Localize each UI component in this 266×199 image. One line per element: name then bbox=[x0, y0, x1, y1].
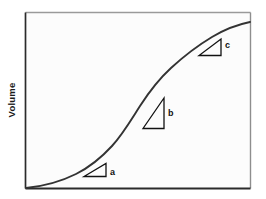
y-axis-label: Volume bbox=[6, 83, 17, 118]
slope-label-c: c bbox=[225, 40, 230, 50]
plot-background bbox=[26, 13, 251, 189]
slope-label-b: b bbox=[168, 108, 174, 118]
volume-sigmoid-chart: a b c Volume bbox=[0, 0, 266, 199]
chart-figure: a b c Volume bbox=[0, 0, 266, 199]
